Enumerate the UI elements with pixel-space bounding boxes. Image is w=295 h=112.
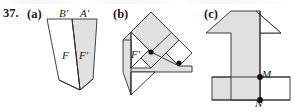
region-label-f-prime-b: F′: [131, 49, 140, 60]
part-c-graphic: [206, 11, 290, 103]
figure-root: 37. (a) (b) (c) B′ A′ F F′ F′ M N: [0, 0, 295, 112]
part-a-graphic: [47, 19, 97, 90]
point-label-n: N: [255, 98, 262, 109]
part-c-band-white-right: [260, 77, 290, 100]
point-label-m: M: [262, 69, 271, 80]
part-b-bottom-tail-triangle: [131, 72, 155, 95]
problem-number: 37.: [3, 7, 19, 20]
figure-vector-graphics: [0, 0, 295, 112]
region-label-f: F: [62, 50, 69, 61]
vertex-label-a-prime: A′: [80, 8, 89, 19]
part-a-label: (a): [27, 8, 42, 21]
region-label-f-prime-a: F′: [79, 50, 88, 61]
part-b-point-F-prime: [148, 49, 153, 54]
vertex-label-b-prime: B′: [59, 8, 68, 19]
part-b-label: (b): [113, 8, 128, 21]
part-c-label: (c): [204, 8, 218, 21]
part-b-point-right: [176, 60, 181, 65]
